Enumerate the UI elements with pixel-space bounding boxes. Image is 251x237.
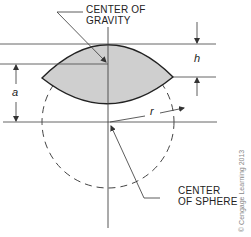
center-of-gravity-label-line1: CENTER OF	[86, 5, 146, 16]
dimension-a-label: a	[12, 86, 18, 98]
center-of-sphere-label-line1: CENTER	[178, 186, 238, 197]
r-arrow-left	[110, 116, 145, 122]
lens-segment	[42, 45, 173, 104]
center-of-sphere-label: CENTER OF SPHERE	[178, 186, 238, 207]
center-of-gravity-label: CENTER OF GRAVITY	[86, 5, 146, 26]
center-of-sphere-leader	[111, 126, 160, 198]
dimension-h-label: h	[194, 52, 200, 64]
copyright-notice: © Cengage Learning 2013	[238, 150, 245, 232]
center-of-sphere-label-line2: OF SPHERE	[178, 197, 238, 208]
dimension-r-label: r	[150, 105, 154, 117]
r-arrow-right	[160, 108, 184, 113]
center-of-gravity-label-line2: GRAVITY	[86, 16, 146, 27]
